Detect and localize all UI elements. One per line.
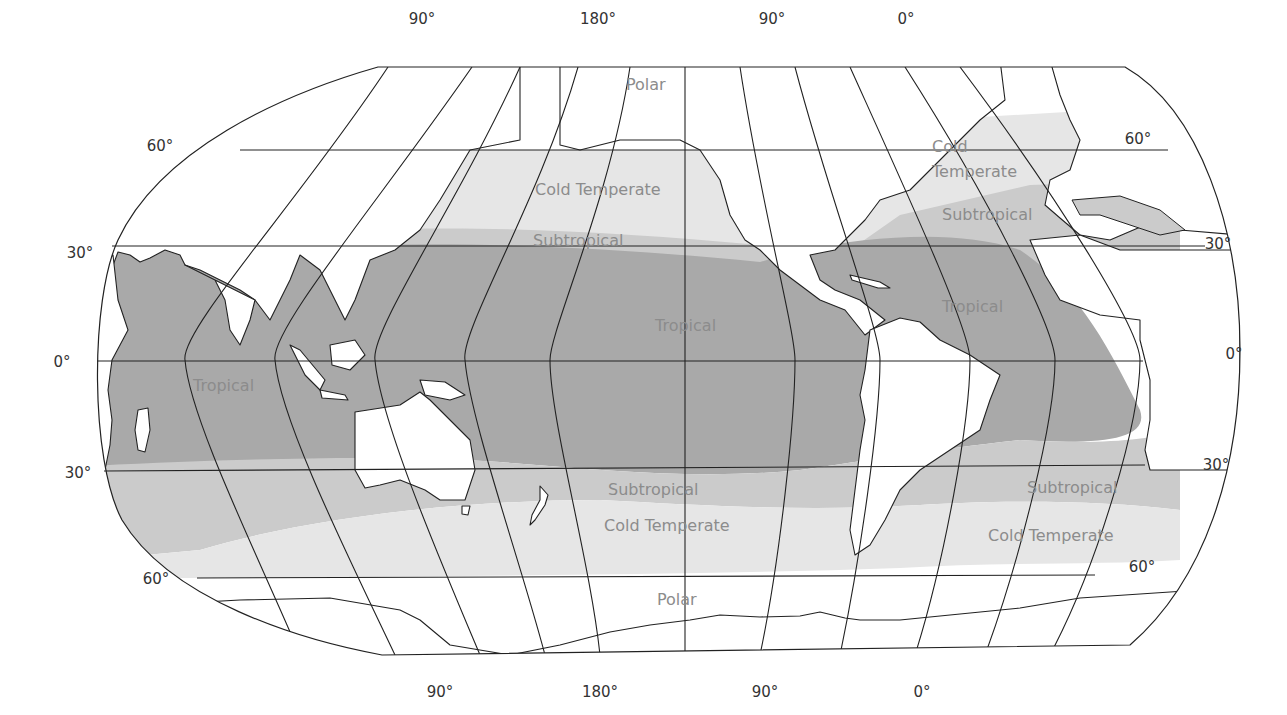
zone-label-cold-temperate-south-pacific: Cold Temperate xyxy=(604,516,730,535)
lon-label: 90° xyxy=(759,10,786,28)
zone-label-subtropical-south-pacific: Subtropical xyxy=(608,480,698,499)
lon-label: 0° xyxy=(913,683,930,701)
zone-label-subtropical-north-atlantic: Subtropical xyxy=(942,205,1032,224)
lon-label: 180° xyxy=(582,683,618,701)
lat-label: 30° xyxy=(65,464,92,482)
zone-label-tropical-pacific: Tropical xyxy=(654,316,716,335)
zone-label-subtropical-south-atlantic: Subtropical xyxy=(1027,478,1117,497)
lat-label: 30° xyxy=(1205,235,1232,253)
zone-label-cold-temperate-north-pacific: Cold Temperate xyxy=(535,180,661,199)
zone-label-polar-north: Polar xyxy=(626,75,666,94)
longitude-labels-top: 90° 180° 90° 0° xyxy=(409,10,915,28)
lon-label: 180° xyxy=(580,10,616,28)
lat-label: 60° xyxy=(147,137,174,155)
lat-label: 30° xyxy=(67,244,94,262)
lat-label: 30° xyxy=(1203,456,1230,474)
lat-label: 0° xyxy=(1225,345,1242,363)
zone-label-cold-north-atlantic: Cold xyxy=(932,137,968,156)
zone-label-tropical-indian: Tropical xyxy=(192,376,254,395)
zone-label-polar-south: Polar xyxy=(657,590,697,609)
ocean-zones xyxy=(0,0,1287,715)
lon-label: 90° xyxy=(409,10,436,28)
lon-label: 90° xyxy=(752,683,779,701)
zone-label-tropical-atlantic: Tropical xyxy=(941,297,1003,316)
lat-label: 60° xyxy=(1125,130,1152,148)
zone-label-temperate-north-atlantic: Temperate xyxy=(931,162,1017,181)
lat-label: 0° xyxy=(53,353,70,371)
lon-label: 0° xyxy=(897,10,914,28)
lat-label: 60° xyxy=(1129,558,1156,576)
ocean-zones-map: 90° 180° 90° 0° 90° 180° 90° 0° 60° 30° … xyxy=(0,0,1287,715)
lat-label: 60° xyxy=(143,570,170,588)
zone-label-cold-temperate-south-atlantic: Cold Temperate xyxy=(988,526,1114,545)
land-tasmania xyxy=(462,506,470,515)
lon-label: 90° xyxy=(427,683,454,701)
zone-label-subtropical-north-pacific: Subtropical xyxy=(533,231,623,250)
longitude-labels-bottom: 90° 180° 90° 0° xyxy=(427,683,931,701)
